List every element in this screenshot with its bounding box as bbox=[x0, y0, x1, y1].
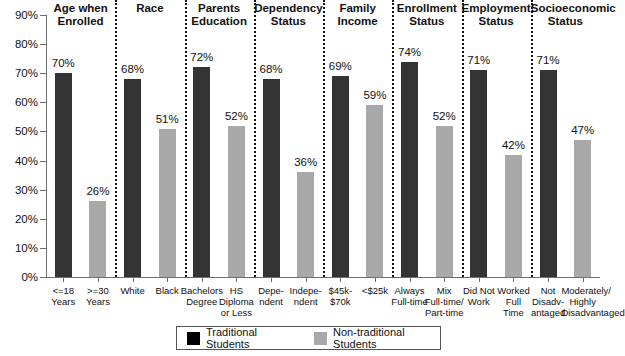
bar bbox=[228, 126, 245, 277]
x-axis-tick bbox=[98, 277, 99, 282]
bar-value-label: 68% bbox=[241, 63, 301, 75]
bar-value-label: 72% bbox=[172, 51, 232, 63]
group-heading-line: Income bbox=[323, 15, 392, 28]
x-axis-tick bbox=[63, 277, 64, 282]
group-heading: EnrollmentStatus bbox=[392, 2, 461, 28]
y-axis-line bbox=[46, 15, 47, 277]
x-axis-tick bbox=[410, 277, 411, 282]
category-label-line: Moderately/ bbox=[561, 285, 604, 296]
y-axis-tick-label: 90% bbox=[0, 9, 38, 21]
bar-value-label: 71% bbox=[518, 54, 578, 66]
group-heading-line: Education bbox=[185, 15, 254, 28]
group-heading-line: Enrolled bbox=[46, 15, 115, 28]
bar bbox=[159, 129, 176, 277]
bar bbox=[470, 70, 487, 277]
y-axis-tick bbox=[40, 102, 46, 103]
x-axis-tick bbox=[271, 277, 272, 282]
x-axis-line bbox=[46, 277, 600, 278]
bar bbox=[366, 105, 383, 277]
group-heading-line: Status bbox=[254, 15, 323, 28]
category-label-line: Years bbox=[77, 296, 120, 307]
group-heading-line: Race bbox=[115, 2, 184, 15]
bar bbox=[332, 76, 349, 277]
bar-value-label: 52% bbox=[206, 110, 266, 122]
y-axis-tick-label: 50% bbox=[0, 125, 38, 137]
group-heading-line: Parents bbox=[185, 2, 254, 15]
group-separator bbox=[323, 0, 325, 277]
group-heading: SocioeconomicStatus bbox=[531, 2, 600, 28]
category-label-line: Disadvantaged bbox=[561, 307, 604, 318]
x-axis-tick bbox=[236, 277, 237, 282]
group-heading-line: Dependency bbox=[254, 2, 323, 15]
x-axis-tick bbox=[444, 277, 445, 282]
group-heading-line: Employment bbox=[462, 2, 531, 15]
legend-swatch-non-traditional-icon bbox=[314, 332, 327, 345]
bar-value-label: 42% bbox=[483, 139, 543, 151]
y-axis-tick-label: 0% bbox=[0, 271, 38, 283]
y-axis-tick bbox=[40, 131, 46, 132]
x-axis-tick bbox=[513, 277, 514, 282]
y-axis-tick-label: 60% bbox=[0, 96, 38, 108]
category-label-line: or Less bbox=[215, 307, 258, 318]
bar-value-label: 68% bbox=[103, 63, 163, 75]
y-axis-tick bbox=[40, 161, 46, 162]
legend-entry-traditional: Traditional Students bbox=[187, 326, 294, 350]
y-axis-tick bbox=[40, 73, 46, 74]
x-axis-tick bbox=[479, 277, 480, 282]
group-separator bbox=[115, 0, 117, 277]
x-axis-tick bbox=[167, 277, 168, 282]
x-axis-tick bbox=[548, 277, 549, 282]
y-axis-tick-label: 80% bbox=[0, 38, 38, 50]
group-separator bbox=[462, 0, 464, 277]
x-axis-tick bbox=[340, 277, 341, 282]
bar bbox=[297, 172, 314, 277]
bar bbox=[124, 79, 141, 277]
bar-value-label: 69% bbox=[310, 60, 370, 72]
group-heading-line: Age when bbox=[46, 2, 115, 15]
y-axis-tick-label: 20% bbox=[0, 213, 38, 225]
bar bbox=[193, 67, 210, 277]
y-axis-tick bbox=[40, 277, 46, 278]
bar bbox=[89, 201, 106, 277]
bar-value-label: 74% bbox=[380, 46, 440, 58]
bar-value-label: 26% bbox=[68, 185, 128, 197]
y-axis-tick-label: 10% bbox=[0, 242, 38, 254]
y-axis-tick-label: 30% bbox=[0, 184, 38, 196]
y-axis-tick bbox=[40, 219, 46, 220]
category-label-line: Highly bbox=[561, 296, 604, 307]
group-heading: Race bbox=[115, 2, 184, 15]
x-axis-tick bbox=[202, 277, 203, 282]
bar-value-label: 59% bbox=[345, 89, 405, 101]
group-heading-line: Status bbox=[531, 15, 600, 28]
x-axis-tick bbox=[306, 277, 307, 282]
bar-value-label: 52% bbox=[414, 110, 474, 122]
group-heading: EmploymentStatus bbox=[462, 2, 531, 28]
legend-label-traditional: Traditional Students bbox=[206, 326, 294, 350]
group-separator bbox=[185, 0, 187, 277]
group-heading-line: Status bbox=[392, 15, 461, 28]
group-heading-line: Socioeconomic bbox=[531, 2, 600, 15]
y-axis-tick bbox=[40, 190, 46, 191]
legend-label-non-traditional: Non-traditional Students bbox=[333, 326, 440, 350]
group-separator bbox=[392, 0, 394, 277]
legend-swatch-traditional-icon bbox=[187, 332, 200, 345]
category-label-line: Part-time bbox=[423, 307, 466, 318]
group-heading-line: Family bbox=[323, 2, 392, 15]
y-axis-tick bbox=[40, 248, 46, 249]
group-heading: DependencyStatus bbox=[254, 2, 323, 28]
bar bbox=[55, 73, 72, 277]
y-axis-tick-label: 40% bbox=[0, 155, 38, 167]
group-heading-line: Status bbox=[462, 15, 531, 28]
group-heading: Age whenEnrolled bbox=[46, 2, 115, 28]
group-heading: ParentsEducation bbox=[185, 2, 254, 28]
bar-value-label: 47% bbox=[553, 124, 613, 136]
bar bbox=[505, 155, 522, 277]
bar bbox=[540, 70, 557, 277]
category-label: Moderately/HighlyDisadvantaged bbox=[561, 285, 604, 318]
x-axis-tick bbox=[583, 277, 584, 282]
y-axis-tick bbox=[40, 44, 46, 45]
chart-legend: Traditional Students Non-traditional Stu… bbox=[176, 326, 441, 350]
bar bbox=[574, 140, 591, 277]
legend-entry-non-traditional: Non-traditional Students bbox=[314, 326, 440, 350]
